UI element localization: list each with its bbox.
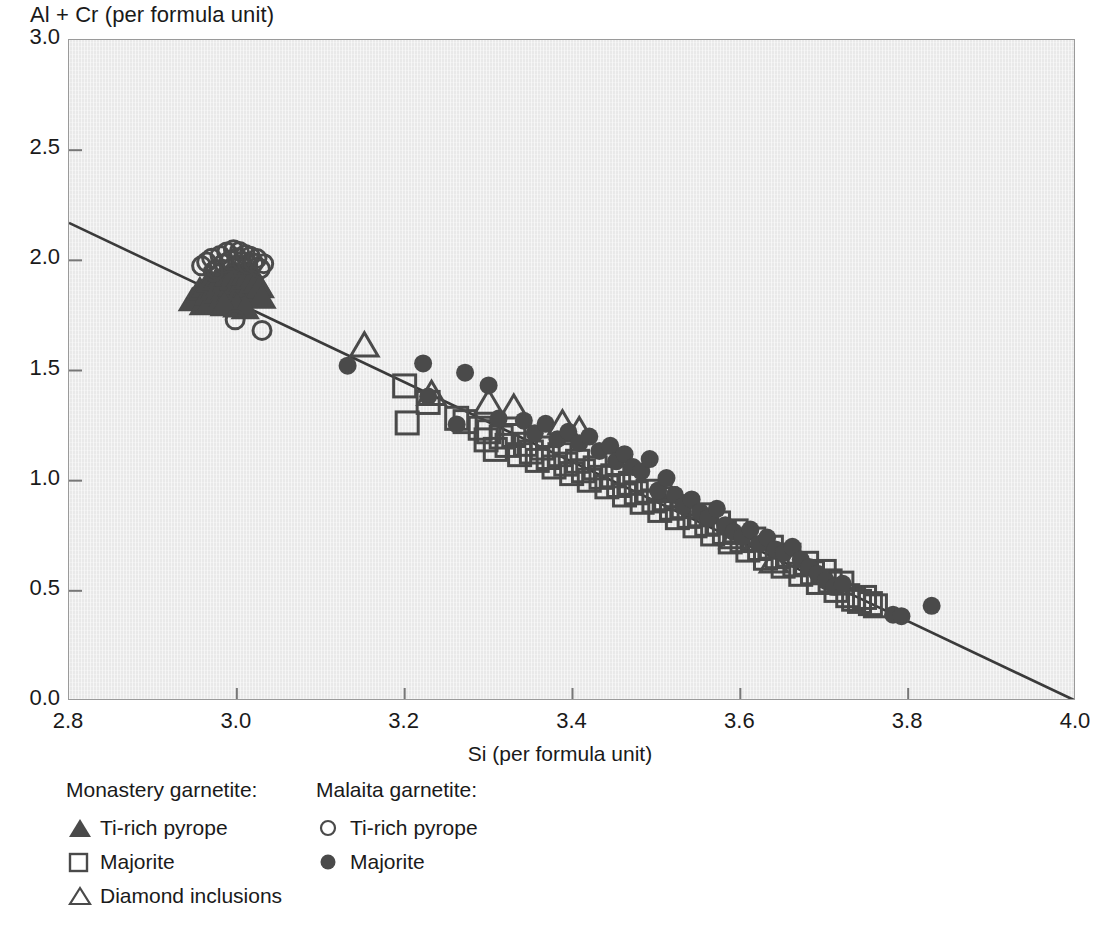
data-point-filled-circle	[708, 500, 726, 518]
data-point-open-circle	[253, 321, 271, 339]
y-tick-label: 0.5	[4, 575, 60, 601]
legend-label: Ti-rich pyrope	[350, 816, 478, 840]
scatter-plot-canvas	[69, 40, 1075, 700]
data-point-filled-circle	[490, 410, 508, 428]
axis-ticks	[69, 150, 908, 700]
y-tick-label: 2.0	[4, 244, 60, 270]
legend-item-monastery-majorite[interactable]: Majorite	[66, 846, 282, 878]
open-square-icon	[66, 849, 100, 875]
x-tick-label: 3.6	[704, 708, 774, 734]
data-point-filled-circle	[641, 450, 659, 468]
y-tick-label: 1.5	[4, 355, 60, 381]
data-point-filled-circle	[414, 354, 432, 372]
data-point-filled-circle	[448, 415, 466, 433]
legend-label: Diamond inclusions	[100, 884, 282, 908]
data-point-filled-circle	[834, 575, 852, 593]
legend-column-malaita: Malaita garnetite: Ti-rich pyrope Majori…	[316, 778, 478, 880]
y-tick-label: 2.5	[4, 134, 60, 160]
x-axis-title: Si (per formula unit)	[0, 742, 1120, 766]
data-point-open-square	[396, 412, 418, 434]
data-point-filled-circle	[419, 387, 437, 405]
open-triangle-icon	[66, 883, 100, 909]
open-circle-icon	[316, 815, 350, 841]
plot-area	[68, 39, 1075, 700]
data-point-filled-circle	[923, 597, 941, 615]
legend-label: Majorite	[100, 850, 175, 874]
y-axis-title: Al + Cr (per formula unit)	[30, 2, 274, 28]
y-tick-label: 3.0	[4, 24, 60, 50]
legend-item-monastery-ti-rich-pyrope[interactable]: Ti-rich pyrope	[66, 812, 282, 844]
data-point-filled-circle	[537, 415, 555, 433]
x-tick-label: 3.0	[201, 708, 271, 734]
data-point-filled-circle	[657, 469, 675, 487]
data-point-open-triangle	[351, 333, 378, 356]
x-tick-label: 4.0	[1040, 708, 1110, 734]
data-point-filled-circle	[892, 607, 910, 625]
data-point-filled-circle	[480, 376, 498, 394]
x-tick-label: 3.4	[537, 708, 607, 734]
legend-label: Majorite	[350, 850, 425, 874]
legend-heading-monastery: Monastery garnetite:	[66, 778, 282, 802]
legend-column-monastery: Monastery garnetite: Ti-rich pyrope Majo…	[66, 778, 282, 914]
data-point-filled-circle	[456, 364, 474, 382]
filled-circle-icon	[316, 849, 350, 875]
filled-triangle-icon	[66, 815, 100, 841]
data-point-filled-circle	[339, 357, 357, 375]
y-tick-label: 1.0	[4, 465, 60, 491]
legend-item-malaita-ti-rich-pyrope[interactable]: Ti-rich pyrope	[316, 812, 478, 844]
legend-item-malaita-majorite[interactable]: Majorite	[316, 846, 478, 878]
x-tick-label: 3.2	[369, 708, 439, 734]
x-tick-label: 3.8	[872, 708, 942, 734]
legend-heading-malaita: Malaita garnetite:	[316, 778, 478, 802]
figure-root: Al + Cr (per formula unit) 0.00.51.01.52…	[0, 0, 1120, 928]
legend-item-monastery-diamond-inclusions[interactable]: Diamond inclusions	[66, 880, 282, 912]
legend-label: Ti-rich pyrope	[100, 816, 228, 840]
x-tick-label: 2.8	[33, 708, 103, 734]
